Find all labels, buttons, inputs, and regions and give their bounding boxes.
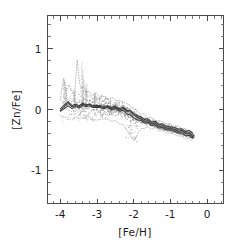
scatter-point xyxy=(134,136,135,137)
scatter-point-spike xyxy=(84,96,85,97)
scatter-point xyxy=(127,108,128,109)
scatter-point xyxy=(126,137,127,138)
scatter-point xyxy=(127,107,128,108)
scatter-point-spike xyxy=(74,99,75,100)
scatter-point xyxy=(75,107,76,108)
scatter-point xyxy=(164,130,165,131)
scatter-point xyxy=(135,132,136,133)
scatter-point xyxy=(124,107,125,108)
scatter-point-spike xyxy=(82,74,83,75)
scatter-point xyxy=(127,118,128,119)
scatter-point xyxy=(131,117,132,118)
scatter-point xyxy=(94,113,95,114)
scatter-point xyxy=(172,132,173,133)
scatter-point xyxy=(125,114,126,115)
scatter-point xyxy=(125,117,126,118)
scatter-point xyxy=(112,104,113,105)
scatter-point xyxy=(106,109,107,110)
scatter-point-spike xyxy=(82,101,83,102)
scatter-point-spike xyxy=(82,85,83,86)
scatter-point xyxy=(98,111,99,112)
scatter-point xyxy=(129,117,130,118)
y-tick-label: -1 xyxy=(31,164,41,176)
scatter-point xyxy=(91,119,92,120)
scatter-point xyxy=(104,104,105,105)
scatter-point xyxy=(89,108,90,109)
scatter-point xyxy=(103,104,104,105)
scatter-point xyxy=(119,105,120,106)
scatter-point-spike xyxy=(85,100,86,101)
scatter-point xyxy=(93,104,94,105)
scatter-point xyxy=(111,111,112,112)
scatter-point xyxy=(125,118,126,119)
scatter-point xyxy=(132,107,133,108)
scatter-point xyxy=(122,106,123,107)
scatter-point xyxy=(121,106,122,107)
scatter-point xyxy=(86,108,87,109)
scatter-point xyxy=(111,113,112,114)
scatter-point xyxy=(119,102,120,103)
scatter-point xyxy=(115,110,116,111)
scatter-point-spike xyxy=(82,93,83,94)
scatter-point-spike xyxy=(74,94,75,95)
scatter-point xyxy=(62,121,63,122)
scatter-point xyxy=(176,127,177,128)
scatter-point xyxy=(193,134,194,135)
scatter-point xyxy=(148,124,149,125)
scatter-point xyxy=(120,112,121,113)
scatter-point-spike xyxy=(64,85,65,86)
scatter-point xyxy=(135,120,136,121)
scatter-point xyxy=(104,99,105,100)
scatter-point-spike xyxy=(81,75,82,76)
scatter-point-spike xyxy=(81,93,82,94)
scatter-point-spike xyxy=(81,99,82,100)
scatter-point xyxy=(84,111,85,112)
scatter-point-spike xyxy=(75,95,76,96)
scatter-point xyxy=(181,134,182,135)
scatter-point xyxy=(91,97,92,98)
scatter-point xyxy=(132,111,133,112)
scatter-point xyxy=(71,101,72,102)
scatter-point xyxy=(95,99,96,100)
scatter-point-spike xyxy=(86,88,87,89)
scatter-point xyxy=(75,113,76,114)
scatter-point xyxy=(130,116,131,117)
scatter-point xyxy=(105,115,106,116)
scatter-point xyxy=(87,109,88,110)
scatter-point xyxy=(79,100,80,101)
scatter-point xyxy=(183,136,184,137)
scatter-point-spike xyxy=(66,99,67,100)
scatter-point xyxy=(115,115,116,116)
scatter-point xyxy=(113,112,114,113)
scatter-point xyxy=(120,114,121,115)
scatter-point xyxy=(74,112,75,113)
scatter-point xyxy=(104,101,105,102)
scatter-point xyxy=(80,115,81,116)
scatter-point-spike xyxy=(95,99,96,100)
scatter-point-spike xyxy=(66,92,67,93)
scatter-point-spike xyxy=(81,77,82,78)
scatter-point xyxy=(102,115,103,116)
scatter-point xyxy=(81,111,82,112)
scatter-point-spike xyxy=(83,75,84,76)
scatter-point-spike xyxy=(85,102,86,103)
scatter-point xyxy=(104,113,105,114)
scatter-point xyxy=(100,99,101,100)
scatter-point xyxy=(81,111,82,112)
scatter-point xyxy=(87,120,88,121)
scatter-point-spike xyxy=(66,100,67,101)
scatter-point xyxy=(147,124,148,125)
scatter-point xyxy=(137,122,138,123)
scatter-point-spike xyxy=(64,81,65,82)
scatter-point-spike xyxy=(94,100,95,101)
scatter-point-spike xyxy=(64,97,65,98)
scatter-point xyxy=(156,127,157,128)
scatter-point-spike xyxy=(82,73,83,74)
scatter-point-spike xyxy=(83,77,84,78)
scatter-point-spike xyxy=(84,98,85,99)
scatter-point xyxy=(130,122,131,123)
scatter-point xyxy=(94,109,95,110)
scatter-point xyxy=(86,117,87,118)
scatter-point xyxy=(114,104,115,105)
scatter-point xyxy=(132,119,133,120)
